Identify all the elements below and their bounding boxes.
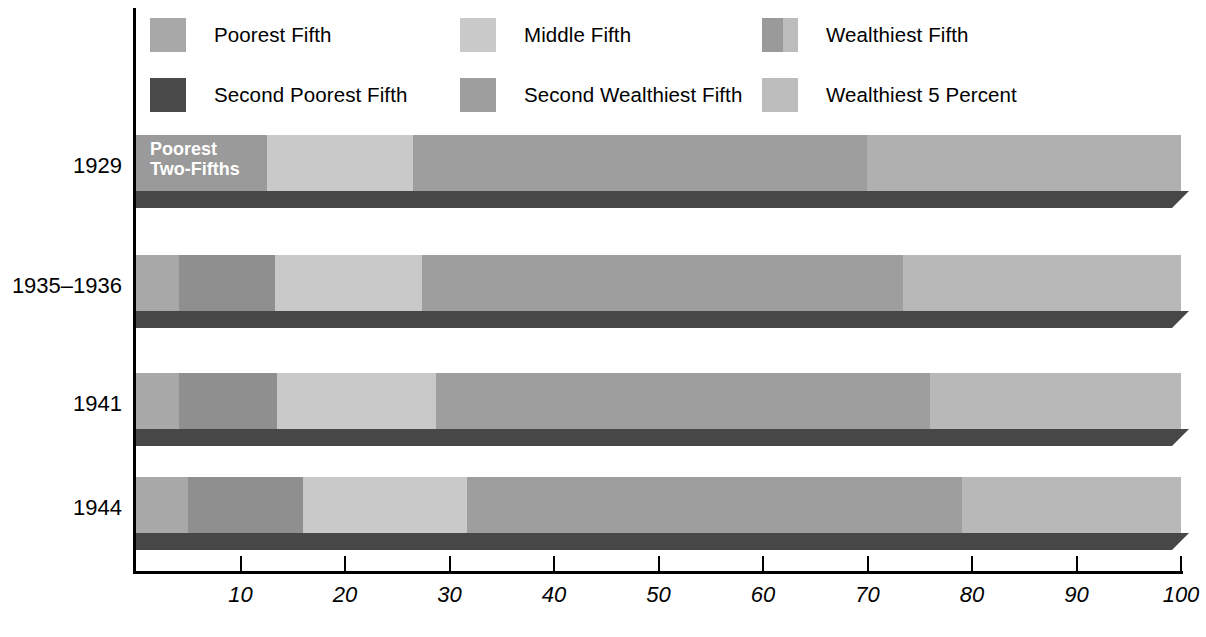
bar-row: 1929Poorest Two-Fifths (0, 135, 1206, 210)
x-axis-tick-label: 60 (751, 582, 775, 608)
bar-segment[interactable] (467, 477, 961, 533)
legend-item[interactable]: Wealthiest Fifth (762, 18, 969, 52)
legend-item[interactable]: Second Poorest Fifth (150, 78, 407, 112)
bar-segment[interactable] (413, 135, 868, 191)
bar-segment[interactable] (267, 135, 413, 191)
bar-segment[interactable] (136, 255, 179, 311)
bar-segment[interactable] (303, 477, 467, 533)
bar-segment[interactable] (930, 373, 1181, 429)
bar-segment[interactable] (962, 477, 1181, 533)
x-axis-tick (762, 556, 764, 572)
legend-item[interactable]: Wealthiest 5 Percent (762, 78, 1017, 112)
bar-base-shadow (136, 191, 1172, 208)
bar-row: 1944 (0, 477, 1206, 552)
legend-label: Second Poorest Fifth (214, 83, 407, 107)
bar-segment[interactable] (422, 255, 903, 311)
x-axis-tick (658, 556, 660, 572)
legend-swatch-wealthiest-fifth (762, 18, 798, 52)
x-axis-tick-label: 100 (1163, 582, 1200, 608)
chart-page: Poorest FifthMiddle FifthWealthiest Fift… (0, 0, 1206, 637)
legend-swatch-part-light (783, 18, 798, 52)
bar-row: 1941 (0, 373, 1206, 448)
legend-swatch-second-poorest-fifth (150, 78, 186, 112)
bar-segment[interactable] (277, 373, 436, 429)
x-axis-tick-label: 70 (855, 582, 879, 608)
legend-swatch-second-wealthiest-fifth (460, 78, 496, 112)
x-axis-tick (240, 556, 242, 572)
bar-base-shadow (136, 533, 1172, 550)
bar-segment[interactable] (867, 135, 1181, 191)
legend-label: Poorest Fifth (214, 23, 332, 47)
bar-segment[interactable] (136, 373, 179, 429)
legend-swatch-wealthiest-5-percent (762, 78, 798, 112)
legend-label: Middle Fifth (524, 23, 631, 47)
x-axis-tick-label: 10 (228, 582, 252, 608)
bar-base-bevel (1172, 429, 1189, 446)
x-axis-tick-label: 20 (333, 582, 357, 608)
x-axis-tick-label: 40 (542, 582, 566, 608)
bar-row-label: 1935–1936 (12, 273, 122, 299)
x-axis-tick-label: 80 (960, 582, 984, 608)
x-axis-tick (344, 556, 346, 572)
bar-segment[interactable] (136, 477, 188, 533)
legend-item[interactable]: Middle Fifth (460, 18, 631, 52)
bar-row: 1935–1936 (0, 255, 1206, 330)
legend-item[interactable]: Poorest Fifth (150, 18, 332, 52)
legend-swatch-poorest-fifth (150, 18, 186, 52)
bar-segment[interactable] (275, 255, 422, 311)
legend-swatch-middle-fifth (460, 18, 496, 52)
bar-segment[interactable] (179, 255, 275, 311)
legend-label: Wealthiest Fifth (826, 23, 969, 47)
bar-stack (136, 477, 1181, 533)
bar-base-bevel (1172, 533, 1189, 550)
x-axis-tick (971, 556, 973, 572)
bar-base-bevel (1172, 191, 1189, 208)
bar-row-label: 1929 (73, 153, 122, 179)
x-axis-tick-label: 90 (1064, 582, 1088, 608)
bar-row-label: 1944 (73, 495, 122, 521)
x-axis-tick (867, 556, 869, 572)
bar-stack (136, 255, 1181, 311)
bar-segment[interactable] (436, 373, 930, 429)
legend-label: Second Wealthiest Fifth (524, 83, 742, 107)
x-axis-tick-label: 30 (437, 582, 461, 608)
bar-base-bevel (1172, 311, 1189, 328)
bar-segment[interactable] (903, 255, 1181, 311)
legend-swatch-part-dark (762, 18, 783, 52)
legend-item[interactable]: Second Wealthiest Fifth (460, 78, 742, 112)
bar-base-shadow (136, 429, 1172, 446)
x-axis-tick (449, 556, 451, 572)
x-axis-tick (1076, 556, 1078, 572)
x-axis-tick (553, 556, 555, 572)
legend-label: Wealthiest 5 Percent (826, 83, 1017, 107)
x-axis-tick (1180, 556, 1182, 572)
bar-row-label: 1941 (73, 391, 122, 417)
bar-stack: Poorest Two-Fifths (136, 135, 1181, 191)
bar-segment[interactable] (188, 477, 303, 533)
bar-segment[interactable]: Poorest Two-Fifths (136, 135, 267, 191)
bar-segment-annotation: Poorest Two-Fifths (150, 139, 240, 179)
bar-segment[interactable] (179, 373, 277, 429)
chart-legend: Poorest FifthMiddle FifthWealthiest Fift… (150, 10, 1190, 118)
x-axis-tick-label: 50 (646, 582, 670, 608)
bar-base-shadow (136, 311, 1172, 328)
bar-stack (136, 373, 1181, 429)
